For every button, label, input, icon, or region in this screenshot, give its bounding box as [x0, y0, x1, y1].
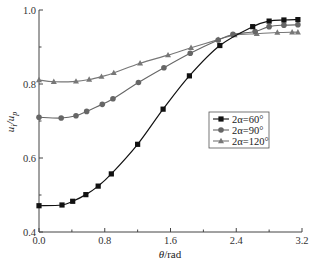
- square-marker: [250, 24, 255, 29]
- circle-marker: [295, 22, 301, 28]
- square-marker: [295, 17, 300, 22]
- circle-marker: [110, 96, 116, 102]
- triangle-marker: [36, 77, 42, 82]
- square-marker: [109, 171, 114, 176]
- circle-marker: [281, 22, 287, 28]
- square-marker: [217, 43, 222, 48]
- y-axis-title: ui/up: [4, 112, 19, 132]
- legend: 2α=60°2α=90°2α=120°: [209, 112, 269, 148]
- circle-marker: [215, 37, 221, 43]
- square-marker: [59, 202, 64, 207]
- x-axis-title: θ/rad: [159, 248, 182, 260]
- circle-marker: [187, 50, 193, 56]
- x-tick-label: 1.6: [164, 235, 177, 246]
- square-marker: [36, 203, 41, 208]
- legend-circle-icon: [218, 127, 224, 133]
- square-marker: [161, 107, 166, 112]
- square-marker: [281, 17, 286, 22]
- legend-label: 2α=90°: [232, 125, 263, 136]
- circle-marker: [161, 65, 167, 71]
- circle-marker: [36, 115, 42, 121]
- circle-marker: [58, 115, 64, 121]
- circle-marker: [99, 102, 105, 108]
- circle-marker: [73, 113, 79, 119]
- circle-marker: [136, 80, 142, 86]
- circle-marker: [84, 109, 90, 115]
- circle-marker: [266, 24, 272, 30]
- square-marker: [187, 73, 192, 78]
- square-marker: [267, 19, 272, 24]
- series-line: [39, 25, 298, 118]
- y-tick-label: 0.6: [23, 153, 36, 164]
- square-marker: [135, 142, 140, 147]
- square-marker: [96, 184, 101, 189]
- x-tick-label: 0.8: [98, 235, 111, 246]
- square-marker: [83, 192, 88, 197]
- y-tick-label: 0.8: [23, 79, 36, 90]
- series-triangle: [36, 29, 301, 84]
- x-tick-label: 3.2: [295, 235, 308, 246]
- legend-label: 2α=60°: [232, 114, 263, 125]
- series-circle: [36, 22, 300, 121]
- legend-square-icon: [218, 116, 223, 121]
- x-tick-label: 2.4: [230, 235, 244, 246]
- y-tick-label: 1.0: [23, 5, 36, 16]
- legend-label: 2α=120°: [232, 136, 269, 147]
- circle-marker: [252, 29, 258, 35]
- line-chart: 0.00.81.62.43.20.40.60.81.0 2α=60°2α=90°…: [0, 0, 320, 266]
- y-tick-label: 0.4: [23, 227, 37, 238]
- square-marker: [70, 199, 75, 204]
